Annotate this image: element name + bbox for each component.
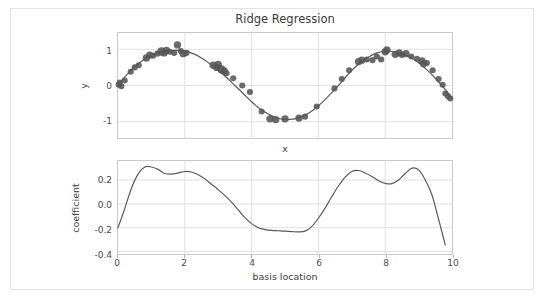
top-plot-axes: [117, 32, 453, 139]
data-point-32: [281, 115, 288, 122]
bottom-ytick-02: 0.2: [87, 176, 112, 185]
bottom-plot-axes: [117, 160, 453, 255]
bottom-xtick-8: 8: [383, 259, 389, 268]
bottom-tickmark-0: [117, 255, 118, 258]
bottom-xtick-2: 2: [181, 259, 187, 268]
bottom-tickmark-1: [184, 255, 185, 258]
bottom-tickmark-2: [251, 255, 252, 258]
data-point-6: [136, 62, 142, 68]
page-title: Ridge Regression: [235, 14, 334, 26]
bottom-plot-canvas: [118, 161, 452, 254]
data-point-3: [122, 77, 128, 83]
scatter-series-1: [116, 41, 454, 123]
data-point-55: [424, 60, 430, 66]
data-point-16: [174, 41, 181, 48]
data-point-31: [272, 116, 279, 123]
bottom-ytick-neg04: -0.4: [87, 251, 112, 260]
bottom-tickmark-3: [319, 255, 320, 258]
data-point-46: [383, 46, 390, 53]
bottom-ytick-neg02: -0.2: [87, 226, 112, 235]
bottom-xtick-6: 6: [316, 259, 322, 268]
bottom-tickmark-5: [453, 255, 454, 258]
top-plot-canvas: [118, 33, 452, 138]
bottom-xtick-0: 0: [114, 259, 120, 268]
data-point-38: [346, 67, 352, 73]
data-point-41: [364, 56, 370, 62]
data-point-56: [430, 67, 436, 73]
data-point-34: [302, 114, 308, 120]
data-point-25: [223, 70, 229, 76]
data-point-2: [118, 83, 124, 89]
data-point-57: [436, 76, 442, 82]
bottom-xaxis-label: basis location: [252, 272, 317, 282]
top-ytick-neg1: -1: [95, 117, 112, 126]
data-point-58: [440, 82, 446, 88]
data-point-15: [171, 50, 177, 56]
data-point-44: [378, 56, 384, 62]
bottom-yaxis-label: coefficient: [71, 183, 81, 233]
top-ytick-1: 1: [95, 47, 112, 56]
bottom-ytick-00: 0.0: [87, 201, 112, 210]
data-point-27: [239, 82, 245, 88]
top-xaxis-label: x: [282, 144, 288, 154]
data-point-61: [447, 95, 453, 101]
data-point-28: [247, 89, 253, 95]
line-series-0: [118, 166, 445, 245]
data-point-29: [259, 109, 265, 115]
data-point-51: [408, 53, 414, 59]
bottom-xtick-4: 4: [249, 259, 255, 268]
figure-root: Ridge Regression 1 0 -1 y x 0.2 0.0 -0.2…: [0, 0, 544, 301]
data-point-36: [331, 85, 337, 91]
data-point-26: [230, 75, 236, 81]
data-point-33: [295, 114, 302, 121]
data-point-35: [314, 103, 320, 109]
top-ytick-0: 0: [95, 82, 112, 91]
bottom-xtick-10: 10: [447, 259, 458, 268]
data-point-19: [183, 50, 189, 56]
data-point-37: [339, 76, 345, 82]
top-yaxis-label: y: [79, 83, 89, 89]
bottom-tickmark-4: [386, 255, 387, 258]
